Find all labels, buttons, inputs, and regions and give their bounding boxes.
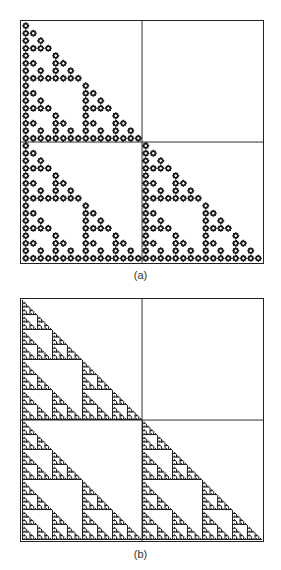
fractal-star-pattern xyxy=(21,21,263,263)
fractal-panel-a xyxy=(20,20,264,264)
caption-b: (b) xyxy=(0,548,281,560)
caption-a: (a) xyxy=(0,269,281,281)
fractal-panel-b xyxy=(20,298,264,542)
fractal-tree-pattern xyxy=(21,299,263,541)
